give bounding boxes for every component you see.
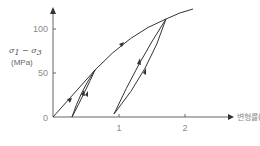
arrow-icon (85, 91, 88, 97)
y-tick-label-100: 100 (33, 24, 48, 34)
stress-strain-chart: 100 50 0 1 2 변형률(%) σ1 − σ3 (MPa) (0, 0, 260, 146)
arrow-icon (137, 58, 141, 65)
y-tick-label-0: 0 (43, 113, 48, 123)
y-axis-arrow-icon (50, 7, 56, 14)
y-axis-title: σ1 − σ3 (9, 46, 42, 57)
x-axis-arrow-icon (228, 114, 234, 120)
x-tick-label-1: 1 (116, 123, 121, 133)
x-axis-title: 변형률(%) (237, 112, 260, 122)
axes (53, 13, 228, 117)
y-axis-unit: (MPa) (11, 58, 33, 67)
y-tick-label-50: 50 (38, 68, 48, 78)
envelope-curve (53, 9, 193, 117)
x-tick-label-2: 2 (182, 123, 187, 133)
loop-2 (114, 19, 166, 114)
